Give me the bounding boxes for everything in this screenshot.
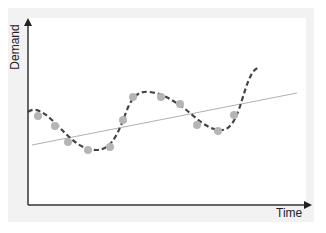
x-axis-label: Time xyxy=(276,206,302,220)
data-point xyxy=(214,127,222,135)
data-point xyxy=(230,111,238,119)
data-point xyxy=(51,122,59,130)
data-point xyxy=(193,121,201,129)
data-point xyxy=(157,93,165,101)
data-point xyxy=(119,116,127,124)
y-axis-label: Demand xyxy=(8,17,22,77)
chart-canvas xyxy=(0,0,326,233)
data-point xyxy=(106,143,114,151)
data-point xyxy=(64,138,72,146)
data-points xyxy=(34,93,238,154)
fitted-curve xyxy=(28,68,258,150)
data-point xyxy=(84,146,92,154)
trend-line xyxy=(32,93,297,145)
data-point xyxy=(34,112,42,120)
data-point xyxy=(129,93,137,101)
diagram-frame: Demand Time xyxy=(0,0,326,233)
data-point xyxy=(176,100,184,108)
